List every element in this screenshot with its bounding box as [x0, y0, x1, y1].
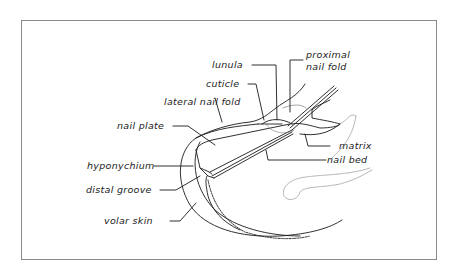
- label-nail-bed: nail bed: [327, 155, 367, 165]
- label-cuticle: cuticle: [206, 79, 239, 89]
- label-proximal-nail-fold-2: nail fold: [306, 62, 347, 72]
- nail-anatomy-drawing: [0, 0, 461, 279]
- label-distal-groove: distal groove: [86, 185, 152, 195]
- label-hyponychium: hyponychium: [87, 161, 155, 171]
- label-lunula: lunula: [212, 60, 243, 70]
- label-volar-skin: volar skin: [104, 216, 153, 226]
- label-lateral-nail-fold: lateral nail fold: [164, 97, 240, 107]
- label-proximal-nail-fold-1: proximal: [306, 50, 350, 60]
- label-matrix: matrix: [339, 141, 372, 151]
- label-nail-plate: nail plate: [117, 121, 164, 131]
